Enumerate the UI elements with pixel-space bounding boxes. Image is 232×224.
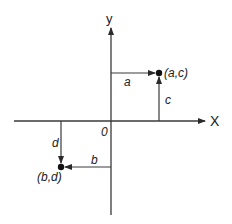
x-axis-label: X: [210, 113, 220, 129]
origin-label: 0: [101, 125, 108, 139]
c-label: c: [165, 93, 171, 107]
b-label: b: [91, 153, 98, 167]
point-ac-dot: [156, 70, 162, 76]
d-label: d: [52, 136, 59, 150]
point-ac-label: (a,c): [164, 66, 188, 80]
coordinate-diagram: y X 0 (a,c) a c (b,d) b d: [0, 0, 232, 224]
point-bd-label: (b,d): [37, 170, 62, 184]
a-label: a: [124, 75, 131, 89]
y-axis-label: y: [106, 11, 113, 26]
